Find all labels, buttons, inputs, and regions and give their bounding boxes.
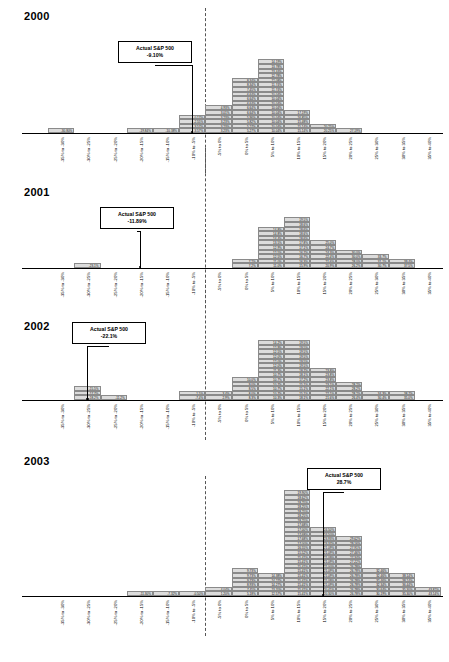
forecast-cell: 5.18% (232, 591, 258, 596)
axis-tick-label: -20% to -15% (139, 600, 144, 625)
actual-sp500-callout: Actual S&P 500-9.10% (118, 41, 192, 63)
forecast-cell: 7.2% (232, 263, 258, 268)
histogram-bin: 15.41%15.41%15.41%15.41%15.41%15.41%15.4… (284, 490, 310, 596)
actual-sp500-callout: Actual S&P 500-11.89% (100, 207, 174, 229)
histogram-bin: 27.19% (336, 128, 362, 133)
histogram-bin: 5.27%5.27%5.82%5.96%6.64%6.64%6.64%6.64%… (232, 78, 258, 133)
forecast-cell: 10.04% (258, 128, 284, 133)
forecast-cell: 3.23% (205, 128, 231, 133)
axis-tick-label: 10% to 15% (296, 272, 301, 295)
histogram-bin: -0.50% (179, 591, 205, 596)
callout-connector (87, 346, 109, 347)
forecast-cell: 26.78% (336, 591, 362, 596)
axis-tick-labels: -35% to -30%-30% to -25%-25% to -20%-20%… (22, 402, 443, 446)
forecast-cell: 26.4% (336, 395, 362, 400)
histogram-bin: 15.14%15.14%15.48%16.85%17.19% (284, 110, 310, 133)
forecast-cell: 5.27% (232, 128, 258, 133)
histogram-bin: 20.25%20.25% (310, 124, 336, 133)
axis-line (22, 400, 443, 401)
axis-tick-label: 20% to 25% (348, 600, 353, 623)
forecast-cell: 43.14% (415, 591, 441, 596)
callout-leader-line (87, 346, 88, 400)
histogram-bin: 26.4%28.2%28.2%28.2% (336, 382, 362, 400)
callout-leader-line (323, 492, 324, 596)
forecast-cell: 30.19% (362, 591, 388, 596)
axis-line (22, 268, 443, 269)
axis-tick-label: 5% to 10% (270, 600, 275, 620)
histogram-bin: 15.9%16.3%16.7%16.7%17.1%17.8%18.6%18.6%… (284, 217, 310, 268)
forecast-cell: 26.2% (336, 263, 362, 268)
histogram-bin: -11.2% (101, 395, 127, 400)
axis-tick-label: 10% to 15% (296, 600, 301, 623)
histogram-bin: 30.19%30.64%32.34%32.46%32.46%32.46% (362, 568, 388, 596)
histogram-bin: -30.80% (48, 128, 74, 133)
histogram-bin: -10.38% (153, 128, 179, 133)
histogram-bin: 43.14%43.82% (415, 587, 441, 596)
forecast-cell: -0.50% (179, 591, 205, 596)
axis-tick-label: 0% to 5% (244, 404, 249, 422)
forecast-cell: 15.14% (284, 128, 310, 133)
axis-tick-label: 15% to 20% (322, 272, 327, 295)
axis-tick-label: -10% to -5% (191, 272, 196, 295)
histogram-bin: 8.3%8.0%8.5%9.0%10.0% (232, 377, 258, 400)
histogram-bin: 10.3%10.7%10.7%10.7%10.7%10.7%11.3%12.0%… (258, 340, 284, 400)
forecast-cell: 15.41% (284, 591, 310, 596)
forecast-cell: -30.80% (48, 128, 74, 133)
histogram-bin: 18.1%15.1%15.1%15.1%17.2%18.1%18.7%19.5%… (284, 340, 310, 400)
axis-tick-label: 25% to 30% (374, 600, 379, 623)
histogram-bin: 37.5%39.4% (389, 259, 415, 268)
axis-tick-label: 35% to 40% (427, 137, 432, 160)
axis-tick-label: -5% to 0% (217, 600, 222, 619)
axis-tick-label: 30% to 35% (401, 272, 406, 295)
histogram-bin: 35.30%35.30%36.44%38.14%38.14% (389, 573, 415, 596)
forecast-cell: 18.1% (284, 395, 310, 400)
callout-connector (323, 492, 344, 493)
axis-tick-label: 10% to 15% (296, 404, 301, 427)
axis-tick-label: -10% to -5% (191, 600, 196, 623)
axis-tick-label: 20% to 25% (348, 272, 353, 295)
year-label: 2000 (24, 10, 50, 22)
forecast-cell: -11.30% (127, 591, 153, 596)
callout-title: Actual S&P 500 (105, 211, 169, 218)
actual-sp500-callout: Actual S&P 500-22.1% (72, 322, 146, 344)
callout-leader-line (140, 231, 141, 268)
forecast-cell: 15.9% (284, 263, 310, 268)
axis-tick-label: 5% to 10% (270, 137, 275, 157)
callout-value: 28.7% (312, 479, 376, 486)
histogram-bin: 26.78%26.78%26.78%26.78%26.78%26.78%26.7… (336, 536, 362, 596)
forecast-cell: -19.84% (127, 128, 153, 133)
actual-sp500-callout: Actual S&P 50028.7% (307, 468, 381, 490)
axis-tick-label: -15% to -10% (165, 404, 170, 429)
forecast-cell: -10.38% (153, 128, 179, 133)
axis-tick-label: 0% to 5% (244, 137, 249, 155)
forecast-cell: 27.19% (336, 128, 362, 133)
axis-tick-label: -30% to -25% (86, 404, 91, 429)
axis-tick-label: 30% to 35% (401, 137, 406, 160)
year-label: 2001 (24, 186, 50, 198)
axis-tick-label: 35% to 40% (427, 600, 432, 623)
histogram-bin: -11.30% (127, 591, 153, 596)
axis-tick-label: -30% to -25% (86, 137, 91, 162)
axis-tick-label: 35% to 40% (427, 404, 432, 427)
histogram-bin: 30.7%31.1%33.7% (362, 254, 388, 268)
actual-value-marker (139, 266, 142, 269)
axis-tick-label: 30% to 35% (401, 404, 406, 427)
actual-value-marker (86, 398, 89, 401)
axis-tick-label: 15% to 20% (322, 137, 327, 160)
axis-tick-label: -30% to -25% (86, 272, 91, 297)
histogram-bin: 3.23%3.23%3.23%3.23%3.01%4.93% (205, 105, 231, 133)
axis-tick-label: -5% to 0% (217, 404, 222, 423)
histogram-bin: -7.32% (153, 591, 179, 596)
forecast-cell: 30.7% (362, 263, 388, 268)
callout-title: Actual S&P 500 (123, 45, 187, 52)
axis-tick-label: -25% to -20% (113, 404, 118, 429)
forecast-cell: 12.57% (258, 591, 284, 596)
axis-tick-label: 20% to 25% (348, 404, 353, 427)
histogram-bin: -7.4%-1.5% (179, 391, 205, 400)
forecast-cell: 30.4% (362, 395, 388, 400)
axis-tick-label: -5% to 0% (217, 137, 222, 156)
histogram-bin: 26.2%28.0%30.0%30.0% (336, 250, 362, 268)
forecast-cell: 10.3% (258, 395, 284, 400)
forecast-cell: 20.9% (310, 263, 336, 268)
axis-tick-label: 5% to 10% (270, 404, 275, 424)
